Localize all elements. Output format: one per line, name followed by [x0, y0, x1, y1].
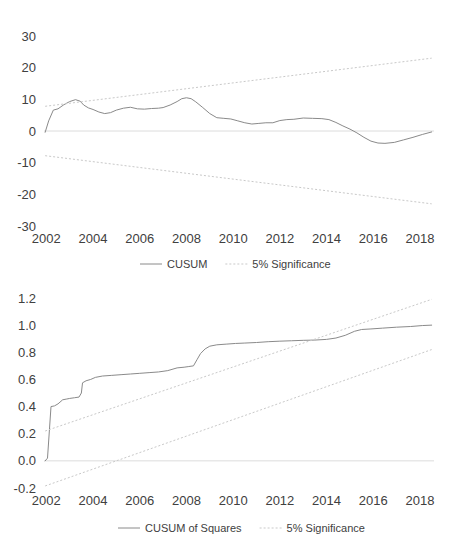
- x-axis-tick-label: 2004: [79, 493, 108, 508]
- x-axis-tick-label: 2016: [359, 493, 388, 508]
- figure-page: -30-20-100102030200220042006200820102012…: [0, 0, 454, 552]
- cusum-chart-svg: -30-20-100102030200220042006200820102012…: [0, 0, 454, 280]
- cusum-chart: -30-20-100102030200220042006200820102012…: [0, 0, 454, 280]
- legend-label: CUSUM of Squares: [145, 522, 242, 534]
- x-axis-tick-label: 2010: [219, 231, 248, 246]
- series-5-significance-lower: [45, 156, 431, 204]
- x-axis-tick-label: 2008: [172, 231, 201, 246]
- legend-label: CUSUM: [167, 258, 207, 270]
- cusum-of-squares-chart-svg: -0.20.00.20.40.60.81.01.2200220042006200…: [0, 280, 454, 552]
- legend-label: 5% Significance: [287, 522, 365, 534]
- x-axis-tick-label: 2014: [312, 493, 341, 508]
- y-axis-tick-label: -20: [17, 187, 36, 202]
- series-5-significance-upper: [45, 299, 431, 431]
- y-axis-tick-label: 20: [22, 60, 36, 75]
- y-axis-tick-label: -10: [17, 155, 36, 170]
- series-5-significance-lower: [45, 350, 431, 486]
- y-axis-tick-label: 1.0: [18, 318, 36, 333]
- x-axis-tick-label: 2002: [32, 231, 61, 246]
- x-axis-tick-label: 2018: [406, 231, 435, 246]
- x-axis-tick-label: 2006: [125, 231, 154, 246]
- series-5-significance: [45, 58, 431, 106]
- y-axis-tick-label: 0.8: [18, 345, 36, 360]
- x-axis-tick-label: 2018: [406, 493, 435, 508]
- x-axis-tick-label: 2016: [359, 231, 388, 246]
- series-cusum: [45, 98, 431, 144]
- cusum-of-squares-chart: -0.20.00.20.40.60.81.01.2200220042006200…: [0, 280, 454, 552]
- x-axis-tick-label: 2014: [312, 231, 341, 246]
- x-axis-tick-label: 2010: [219, 493, 248, 508]
- y-axis-tick-label: 0.2: [18, 426, 36, 441]
- y-axis-tick-label: 0.4: [18, 399, 36, 414]
- y-axis-tick-label: 0.0: [18, 453, 36, 468]
- y-axis-tick-label: 1.2: [18, 291, 36, 306]
- y-axis-tick-label: 0: [29, 124, 36, 139]
- y-axis-tick-label: 10: [22, 92, 36, 107]
- y-axis-tick-label: 0.6: [18, 372, 36, 387]
- x-axis-tick-label: 2008: [172, 493, 201, 508]
- y-axis-tick-label: 30: [22, 29, 36, 44]
- series-cusum-of-squares: [45, 325, 431, 461]
- x-axis-tick-label: 2012: [265, 493, 294, 508]
- x-axis-tick-label: 2012: [265, 231, 294, 246]
- x-axis-tick-label: 2006: [125, 493, 154, 508]
- x-axis-tick-label: 2002: [32, 493, 61, 508]
- x-axis-tick-label: 2004: [79, 231, 108, 246]
- legend-label: 5% Significance: [252, 258, 330, 270]
